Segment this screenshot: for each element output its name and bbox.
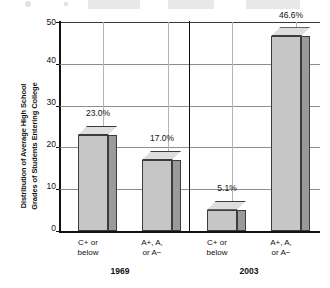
- y-tick-label-20: 20: [34, 140, 56, 149]
- bar-chart: Distribution of Average High School Grad…: [0, 0, 330, 288]
- bar-value-label: 5.1%: [203, 184, 251, 193]
- bar-side: [237, 210, 246, 231]
- y-tick-label-30: 30: [34, 98, 56, 107]
- y-axis-title-line-1: Distribution of Average High School: [19, 46, 30, 246]
- y-axis-tick-labels: 50 40 30 20 10 0: [30, 0, 56, 288]
- bar-2003-a-plus-a-or-a-minus: 46.6%: [271, 22, 311, 231]
- category-label-line-2: or A−: [251, 248, 311, 258]
- category-label-1969-c-plus-or-below: C+ or below: [58, 238, 118, 258]
- y-tick-label-10: 10: [34, 182, 56, 191]
- bar-top: [142, 151, 181, 160]
- category-label-line-1: A+, A,: [251, 238, 311, 248]
- tick-30: [56, 106, 60, 107]
- category-label-1969-a-plus-a-or-a-minus: A+, A, or A−: [122, 238, 182, 258]
- bar-side: [108, 135, 117, 231]
- y-tick-label-40: 40: [34, 56, 56, 65]
- plot-area: 23.0% 17.0% 5.1% 46.6%: [60, 22, 320, 232]
- category-label-line-2: below: [187, 248, 247, 258]
- bar-1969-c-plus-or-below: 23.0%: [78, 22, 118, 231]
- y-axis-line: [59, 21, 61, 233]
- category-label-line-2: below: [58, 248, 118, 258]
- bar-value-label: 46.6%: [267, 11, 315, 20]
- tick-10: [56, 189, 60, 190]
- bar-1969-a-plus-a-or-a-minus: 17.0%: [142, 22, 182, 231]
- tick-40: [56, 64, 60, 65]
- bar-front: [142, 160, 172, 231]
- bar-front: [271, 36, 301, 231]
- bar-top: [78, 126, 117, 135]
- bar-top: [271, 27, 310, 36]
- category-label-line-2: or A−: [122, 248, 182, 258]
- bar-front: [78, 135, 108, 231]
- category-label-2003-c-plus-or-below: C+ or below: [187, 238, 247, 258]
- category-label-line-1: C+ or: [58, 238, 118, 248]
- category-label-line-1: A+, A,: [122, 238, 182, 248]
- y-tick-label-0: 0: [34, 224, 56, 233]
- bar-front: [207, 210, 237, 231]
- bar-2003-c-plus-or-below: 5.1%: [207, 22, 247, 231]
- group-label-1969: 1969: [90, 266, 150, 276]
- tick-50: [56, 22, 60, 23]
- tick-0: [56, 231, 60, 232]
- bar-value-label: 23.0%: [74, 109, 122, 118]
- bar-value-label: 17.0%: [138, 134, 186, 143]
- category-label-2003-a-plus-a-or-a-minus: A+, A, or A−: [251, 238, 311, 258]
- category-label-line-1: C+ or: [187, 238, 247, 248]
- tick-20: [56, 147, 60, 148]
- bar-side: [172, 160, 181, 231]
- group-divider-line: [189, 21, 190, 232]
- group-label-2003: 2003: [219, 266, 279, 276]
- bar-side: [301, 36, 310, 231]
- y-tick-label-50: 50: [34, 18, 56, 27]
- bar-top: [207, 201, 246, 210]
